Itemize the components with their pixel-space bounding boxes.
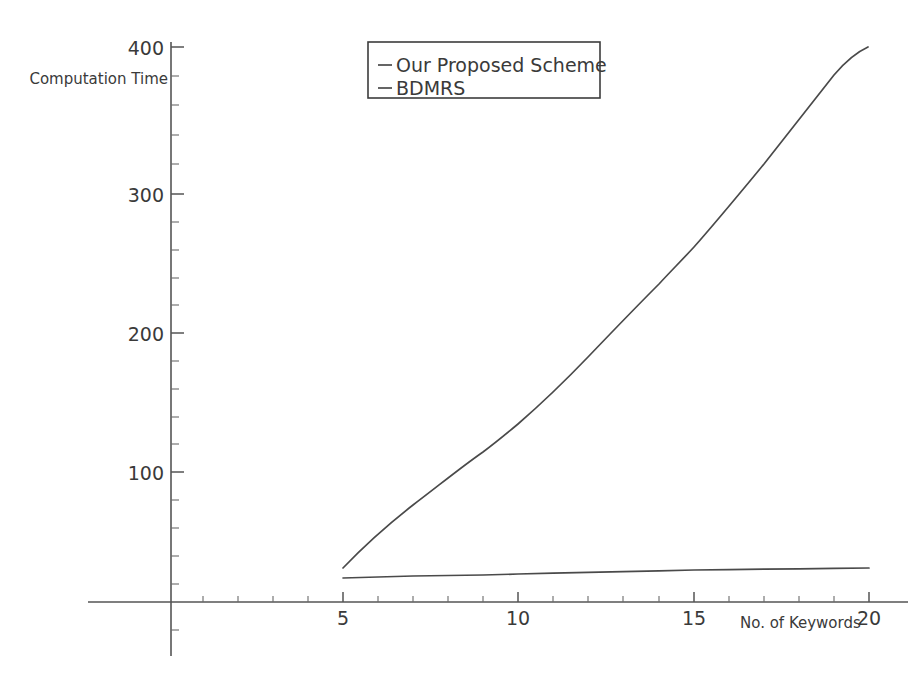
y-tick-label-100: 100 bbox=[128, 462, 164, 484]
legend-label-our-proposed-scheme: Our Proposed Scheme bbox=[396, 54, 607, 76]
legend-label-bdmrs: BDMRS bbox=[396, 77, 465, 99]
series-line-bdmrs bbox=[343, 47, 868, 568]
y-axis-minor-ticks bbox=[171, 76, 179, 630]
y-axis-title: Computation Time bbox=[29, 70, 168, 88]
x-axis-title: No. of Keywords bbox=[740, 614, 861, 632]
chart-legend: Our Proposed Scheme BDMRS bbox=[368, 42, 607, 99]
series-line-our-proposed-scheme bbox=[343, 568, 869, 578]
y-tick-label-300: 300 bbox=[128, 184, 164, 206]
line-chart: 400 300 200 100 5 10 15 20 Computation T… bbox=[0, 0, 924, 673]
x-tick-label-5: 5 bbox=[337, 607, 349, 629]
y-axis-major-ticks bbox=[171, 47, 184, 472]
chart-figure: 400 300 200 100 5 10 15 20 Computation T… bbox=[0, 0, 924, 673]
y-tick-label-400: 400 bbox=[128, 37, 164, 59]
x-tick-label-15: 15 bbox=[682, 607, 706, 629]
x-axis-major-ticks bbox=[343, 592, 869, 602]
y-tick-label-200: 200 bbox=[128, 323, 164, 345]
x-tick-label-10: 10 bbox=[506, 607, 530, 629]
